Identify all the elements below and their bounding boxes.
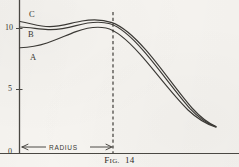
figure-container: 10 5 0 C B A RADIUS FIG. 14 xyxy=(0,0,239,167)
curve-b xyxy=(20,22,216,126)
radius-span-label: RADIUS xyxy=(49,144,78,151)
plot-canvas xyxy=(0,0,239,167)
caption-ig: IG. xyxy=(110,157,120,165)
y-tick-label-10: 10 xyxy=(5,24,13,32)
figure-caption: FIG. 14 xyxy=(0,155,239,165)
curve-label-c: C xyxy=(29,10,35,19)
curve-a xyxy=(20,27,216,127)
y-tick-label-5: 5 xyxy=(8,85,12,93)
curve-label-a: A xyxy=(30,53,36,62)
caption-number: 14 xyxy=(125,155,135,165)
curve-c xyxy=(20,20,216,126)
curve-label-b: B xyxy=(28,30,34,39)
